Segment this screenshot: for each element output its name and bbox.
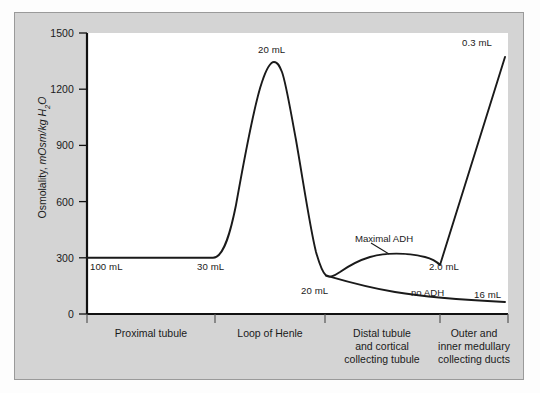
y-axis-title-tail: O: [36, 97, 48, 105]
segment-label-medullary-ducts-line1: Outer and: [414, 327, 534, 340]
annotation-no-adh: no ADH: [411, 287, 444, 298]
y-axis-title-main: Osmolality,: [36, 164, 48, 218]
segment-label-proximal-tubule-line1: Proximal tubule: [91, 327, 211, 340]
segment-label-loop-of-henle: Loop of Henle: [210, 327, 330, 340]
osmolality-curve-maximal-adh: [87, 57, 505, 277]
segment-label-medullary-ducts: Outer and inner medullary collecting duc…: [414, 327, 534, 366]
volume-label-2ml: 2.0 mL: [429, 261, 459, 272]
volume-label-20ml-distal: 20 mL: [301, 285, 328, 296]
segment-label-proximal-tubule: Proximal tubule: [91, 327, 211, 340]
segment-label-loop-of-henle-line1: Loop of Henle: [210, 327, 330, 340]
volume-label-16ml: 16 mL: [474, 289, 501, 300]
volume-label-20ml-peak: 20 mL: [258, 44, 285, 55]
annotation-maximal-adh: Maximal ADH: [355, 233, 413, 244]
y-tick-label-300: 300: [28, 252, 74, 264]
y-axis-title-sub: 2: [43, 105, 52, 109]
y-tick-label-0: 0: [28, 308, 74, 320]
segment-label-medullary-ducts-line3: collecting ducts: [414, 353, 534, 366]
maximal-adh-leader-line: [371, 243, 389, 254]
y-tick-label-1500: 1500: [28, 27, 74, 39]
y-axis-title-italic: mOsm/kg H: [36, 109, 48, 164]
volume-label-30ml: 30 mL: [197, 261, 224, 272]
segment-label-medullary-ducts-line2: inner medullary: [414, 340, 534, 353]
figure-container: 1500 1200 900 600 300 0 Osmolality, mOsm…: [0, 0, 540, 393]
y-axis-title: Osmolality, mOsm/kg H2O: [36, 78, 51, 238]
volume-label-100ml: 100 mL: [90, 261, 123, 272]
volume-label-0-3ml: 0.3 mL: [462, 37, 492, 48]
